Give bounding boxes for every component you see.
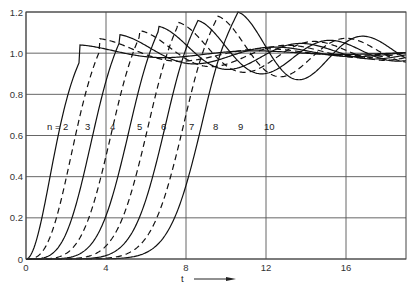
series-label: n = 2 [47, 121, 68, 132]
y-tick-label: 1.2 [10, 7, 23, 18]
y-tick-label: 0.8 [10, 89, 23, 100]
series-label: 8 [213, 121, 218, 132]
x-axis-label-t: t [181, 273, 184, 284]
series-label: 7 [189, 121, 194, 132]
x-tick-label: 4 [103, 262, 108, 273]
y-tick-label: 0.4 [10, 171, 23, 182]
y-tick-label: 0.2 [10, 212, 23, 223]
y-tick-label: 1.0 [10, 48, 23, 59]
y-axis-tick-labels: 00.20.40.60.81.01.2 [10, 7, 23, 265]
x-tick-label: 16 [341, 262, 352, 273]
series-label: 6 [161, 121, 166, 132]
y-tick-label: 0.6 [10, 130, 23, 141]
curve-n-6 [26, 26, 406, 259]
series-label: 4 [110, 121, 115, 132]
x-axis-tick-labels: 0481216 [23, 262, 351, 273]
curve-n-3 [26, 39, 406, 259]
y-tick-label: 0 [18, 254, 23, 265]
x-tick-label: 8 [183, 262, 188, 273]
grid-lines [26, 12, 406, 259]
arrow-head-icon [226, 277, 236, 281]
step-response-chart: 00.20.40.60.81.01.2 0481216 n = 23456789… [0, 0, 415, 286]
curve-n-5 [26, 31, 406, 259]
curve-n-2 [26, 45, 406, 259]
series-label: 9 [238, 121, 243, 132]
series-label: 3 [85, 121, 90, 132]
x-tick-label: 0 [23, 262, 28, 273]
x-axis-label: t [181, 273, 236, 284]
x-tick-label: 12 [261, 262, 272, 273]
series-label: 5 [137, 121, 142, 132]
series-labels: n = 2345678910 [47, 121, 275, 132]
curve-n-7 [26, 22, 406, 259]
series-label: 10 [264, 121, 275, 132]
